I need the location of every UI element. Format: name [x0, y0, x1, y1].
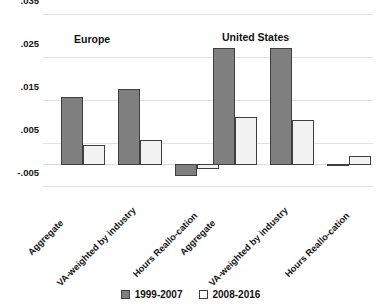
panel-title-europe: Europe	[74, 33, 110, 45]
bar-europe-hours-realloc-1999-2007	[175, 164, 197, 176]
x-label-us-hours-realloc: Hours Reallo-cation	[283, 211, 351, 279]
gridline-015	[43, 100, 373, 101]
y-tick-label: -.005	[17, 167, 39, 178]
legend-swatch-icon	[121, 290, 130, 299]
gridline-025	[43, 57, 373, 58]
panel-title-united-states: United States	[222, 31, 289, 43]
bar-europe-va-weighted-2008-2016	[140, 140, 162, 165]
y-tick-label: .015	[21, 81, 40, 92]
x-label-us-va-weighted: VA-weighted by industry	[207, 205, 290, 288]
bar-us-hours-realloc-2008-2016	[349, 156, 371, 165]
legend-label: 1999-2007	[135, 289, 183, 300]
bar-europe-va-weighted-1999-2007	[118, 89, 140, 165]
legend-item-2008-2016: 2008-2016	[199, 289, 261, 300]
legend-swatch-icon	[199, 290, 208, 299]
chart-root: .035 .025 .015 .005 -.005 Europe Unit	[0, 0, 381, 304]
x-label-europe-aggregate: Aggregate	[26, 218, 65, 257]
bar-us-hours-realloc-1999-2007	[327, 164, 349, 166]
bar-us-aggregate-1999-2007	[213, 48, 235, 165]
gridline-035	[43, 14, 373, 15]
x-label-europe-va-weighted: VA-weighted by industry	[55, 205, 138, 288]
bar-us-va-weighted-2008-2016	[292, 120, 314, 165]
x-axis-labels: Aggregate VA-weighted by industry Hours …	[0, 186, 381, 274]
bar-europe-aggregate-2008-2016	[83, 145, 105, 165]
bar-europe-aggregate-1999-2007	[61, 97, 83, 165]
y-tick-label: .035	[21, 0, 40, 6]
y-axis: .035 .025 .015 .005 -.005	[0, 0, 41, 172]
bar-us-va-weighted-1999-2007	[270, 48, 292, 165]
bar-us-aggregate-2008-2016	[235, 117, 257, 165]
y-tick-label: .005	[21, 124, 40, 135]
chart-legend: 1999-2007 2008-2016	[0, 289, 381, 300]
legend-item-1999-2007: 1999-2007	[121, 289, 183, 300]
legend-label: 2008-2016	[213, 289, 261, 300]
gridline-005	[43, 143, 373, 144]
y-tick-label: .025	[21, 38, 40, 49]
